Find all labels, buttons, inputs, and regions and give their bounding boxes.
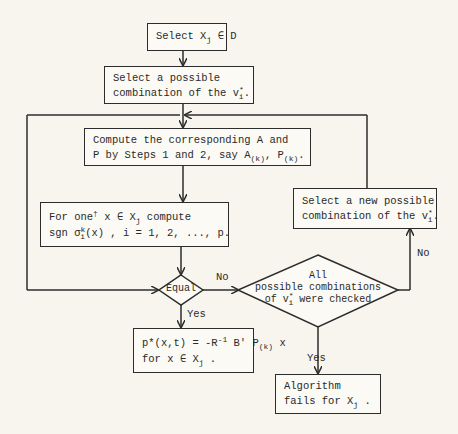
- fails-line1: Algorithm: [284, 379, 372, 394]
- select-new-line1: Select a new possible: [302, 194, 428, 209]
- select-combination-line2: combination of the v*i.: [113, 86, 245, 101]
- result-formula-line1: p*(x,t) = -R-1 B' P(k) x: [142, 335, 245, 351]
- select-new-line2: combination of the v*i.: [302, 209, 428, 224]
- all-checked-decision: All possible combinations of v*i were ch…: [238, 270, 398, 306]
- for-one-x-line1: For one† x ∈ Xj compute: [49, 209, 220, 225]
- fails-line2: fails for Xj .: [284, 394, 372, 409]
- select-xj-text: Select X: [156, 30, 206, 42]
- select-combination-box: Select a possible combination of the v*i…: [104, 66, 254, 104]
- select-new-combination-box: Select a new possible combination of the…: [293, 188, 437, 229]
- checked-yes-label: Yes: [307, 352, 326, 364]
- compute-ap-line2: P by Steps 1 and 2, say A(k), P(k).: [93, 148, 302, 163]
- compute-ap-line1: Compute the corresponding A and: [93, 133, 302, 148]
- algorithm-fails-box: Algorithm fails for Xj .: [275, 374, 381, 414]
- select-xj-box: Select Xj ∈ D: [147, 23, 227, 51]
- result-formula-line2: for x ∈ Xj .: [142, 351, 245, 367]
- equal-yes-label: Yes: [187, 308, 206, 320]
- equal-decision-label: Equal: [159, 283, 203, 294]
- checked-no-label: No: [417, 247, 430, 259]
- for-one-x-line2: sgn σki(x) , i = 1, 2, ..., p.: [49, 225, 220, 241]
- equal-no-label: No: [216, 271, 229, 283]
- compute-ap-box: Compute the corresponding A and P by Ste…: [84, 128, 311, 166]
- select-combination-line1: Select a possible: [113, 71, 245, 86]
- result-formula-box: p*(x,t) = -R-1 B' P(k) x for x ∈ Xj .: [133, 328, 254, 373]
- for-one-x-box: For one† x ∈ Xj compute sgn σki(x) , i =…: [40, 202, 229, 247]
